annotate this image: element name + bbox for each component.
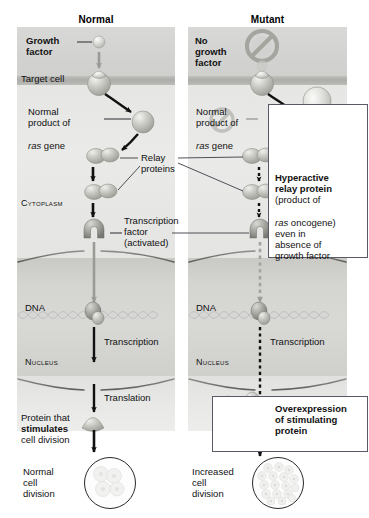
- ras-product-line2: product of: [28, 117, 70, 128]
- figure-canvas: Normal Mutant: [0, 0, 369, 518]
- label-stimulating-protein: Protein that stimulates cell division: [21, 412, 87, 446]
- overexpression-callout: Overexpression of stimulating protein: [212, 396, 368, 452]
- transcription-factor-normal: [84, 219, 104, 238]
- label-normal-cell-division: Normal cell division: [23, 466, 83, 500]
- normal-division-line2: cell: [23, 477, 83, 488]
- hyperactive-ras-italic: ras: [275, 217, 288, 228]
- overexpression-line1: Overexpression: [275, 403, 365, 414]
- label-ras-product-mutant: Normal product of ras gene: [196, 106, 238, 151]
- relay-proteins-line1: Relay: [141, 152, 175, 163]
- ras-product-mutant-line1: Normal: [196, 106, 238, 117]
- transcription-factor-bound-mutant: [251, 302, 270, 325]
- label-target-cell: Target cell: [21, 73, 64, 84]
- label-nucleus-normal: Nucleus: [25, 357, 58, 368]
- label-growth-factor: Growth factor: [26, 35, 59, 57]
- no-growth-factor-prohibition-icon: [247, 31, 277, 61]
- stim-line1: Protein that: [21, 412, 87, 423]
- hyperactive-line6: absence of: [275, 239, 367, 250]
- increased-division-line3: division: [192, 488, 252, 499]
- label-no-growth-factor: No growth factor: [195, 35, 227, 69]
- ras-gene-italic-mutant: ras: [196, 140, 209, 151]
- transcription-factor-bound-normal: [85, 302, 104, 325]
- hyperactive-line3: (product of: [275, 194, 367, 205]
- stim-line3: cell division: [21, 434, 87, 445]
- relay-proteins-line2: proteins: [141, 163, 175, 174]
- arrow-ras-to-relay1-normal: [122, 134, 138, 150]
- normal-division-line3: division: [23, 488, 83, 499]
- label-increased-cell-division: Increased cell division: [192, 466, 252, 500]
- hyperactive-line5: even in: [275, 228, 367, 239]
- label-transcription-normal: Transcription: [104, 336, 159, 347]
- relay-protein-2-normal: [85, 184, 118, 200]
- relay-protein-1-normal: [87, 148, 120, 164]
- overexpression-line3: protein: [275, 425, 365, 436]
- relay-proteins-leaders: [118, 157, 243, 191]
- hyperactive-line7: growth factor: [275, 250, 367, 261]
- label-dna-normal: DNA: [25, 302, 45, 313]
- increased-division-line1: Increased: [192, 466, 252, 477]
- growth-factor-ligand-absent-mutant: [257, 61, 268, 72]
- label-translation-normal: Translation: [104, 392, 151, 403]
- ras-gene-rest: gene: [41, 140, 65, 151]
- receptor-normal: [88, 71, 111, 96]
- label-dna-mutant: DNA: [196, 302, 216, 313]
- hyperactive-line2: relay protein: [275, 183, 367, 194]
- hyperactive-line1: Hyperactive: [275, 172, 367, 183]
- label-ras-product-normal: Normal product of ras gene: [28, 106, 70, 151]
- ras-gene-rest-mutant: gene: [209, 140, 233, 151]
- label-relay-proteins: Relay proteins: [141, 152, 175, 174]
- stim-line2: stimulates: [21, 423, 87, 434]
- ras-protein-normal: [132, 111, 154, 133]
- label-transcription-factor: Transcription factor (activated): [124, 215, 186, 249]
- label-cytoplasm-normal: Cytoplasm: [21, 198, 63, 209]
- transcription-factor-mutant: [250, 219, 270, 238]
- hyperactive-relay-protein-callout: Hyperactive relay protein (product of ra…: [268, 104, 368, 258]
- label-nucleus-mutant: Nucleus: [196, 357, 229, 368]
- arrow-receptor-to-ras-normal: [105, 94, 131, 112]
- growth-factor-ligand-normal: [93, 36, 105, 48]
- increased-cell-division-circle: [253, 458, 304, 509]
- increased-division-line2: cell: [192, 477, 252, 488]
- label-transcription-mutant: Transcription: [270, 336, 325, 347]
- ras-product-mutant-line2: product of: [196, 117, 238, 128]
- overexpression-line2: of stimulating: [275, 414, 365, 425]
- tf-line1: Transcription: [124, 215, 186, 226]
- hyperactive-oncogene-rest: oncogene): [288, 217, 336, 228]
- normal-division-line1: Normal: [23, 466, 83, 477]
- normal-cell-division-circle: [85, 458, 136, 509]
- tf-line3: (activated): [124, 237, 186, 248]
- ras-product-line1: Normal: [28, 106, 70, 117]
- tf-line2: factor: [124, 226, 186, 237]
- ras-gene-italic: ras: [28, 140, 41, 151]
- receptor-mutant: [251, 71, 274, 96]
